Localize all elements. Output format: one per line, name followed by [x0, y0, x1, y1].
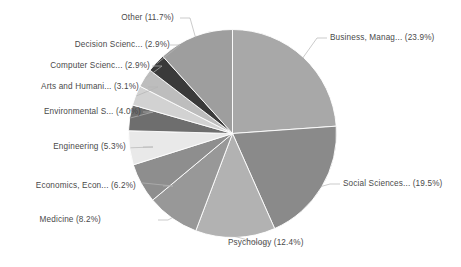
- leader-line: [180, 18, 196, 37]
- pie-slices-group: [129, 30, 337, 238]
- leader-line: [303, 38, 327, 58]
- pie-chart-figure: Business, Manag... (23.9%) Social Scienc…: [0, 0, 461, 267]
- pie-slice[interactable]: [233, 30, 337, 134]
- pie-label-decision-science: Decision Scienc... (2.9%): [75, 41, 170, 49]
- pie-label-social-sciences: Social Sciences... (19.5%): [343, 180, 442, 188]
- pie-label-arts-humanities: Arts and Humani... (3.1%): [41, 83, 139, 91]
- pie-label-psychology: Psychology (12.4%): [228, 239, 304, 247]
- pie-label-engineering: Engineering (5.3%): [53, 143, 126, 151]
- pie-label-environmental-science: Environmental S... (4.0%): [44, 108, 141, 116]
- pie-label-medicine: Medicine (8.2%): [40, 216, 101, 224]
- leader-line: [158, 217, 173, 220]
- pie-label-other: Other (11.7%): [121, 14, 174, 22]
- pie-label-computer-science: Computer Scienc... (2.9%): [50, 62, 150, 70]
- pie-label-business: Business, Manag... (23.9%): [330, 34, 434, 42]
- pie-label-economics: Economics, Econ... (6.2%): [36, 182, 136, 190]
